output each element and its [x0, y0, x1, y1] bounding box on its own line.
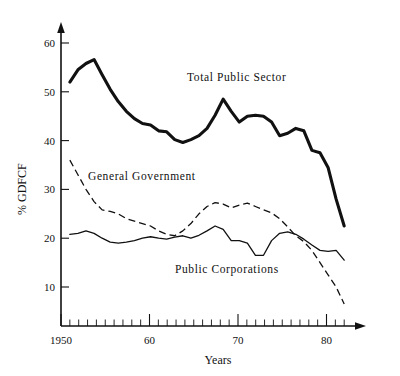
- y-tick-label-30: 30: [44, 183, 56, 195]
- x-axis-title: Years: [205, 353, 232, 367]
- x-tick-label-1950: 1950: [50, 334, 73, 346]
- x-tick-label-60: 60: [144, 334, 156, 346]
- series-label-general-government: General Government: [88, 170, 196, 182]
- series-line-public-corporations: [70, 226, 344, 260]
- y-tick-label-50: 50: [44, 86, 56, 98]
- x-axis-minor-ticks: [70, 320, 344, 327]
- line-chart-plot: 60 50 40 30 20 10 % GDFCF 1950 60 70 80 …: [0, 0, 400, 376]
- y-tick-label-20: 20: [44, 232, 56, 244]
- y-tick-label-40: 40: [44, 135, 56, 147]
- y-axis-arrowhead: [57, 22, 65, 33]
- y-axis-title: % GDFCF: [15, 163, 29, 215]
- y-axis: [57, 22, 65, 326]
- y-axis-ticks: [61, 43, 69, 287]
- series-label-public-corporations: Public Corporations: [175, 263, 279, 276]
- y-axis-tick-labels: 60 50 40 30 20 10: [44, 37, 56, 293]
- series-line-total-public-sector: [70, 60, 344, 226]
- y-tick-label-10: 10: [44, 281, 56, 293]
- x-tick-label-70: 70: [233, 334, 245, 346]
- x-axis-arrowhead: [355, 322, 366, 330]
- x-axis-tick-labels: 1950 60 70 80: [50, 334, 333, 346]
- x-axis: [61, 322, 366, 330]
- chart-figure: 60 50 40 30 20 10 % GDFCF 1950 60 70 80 …: [0, 0, 400, 376]
- y-tick-label-60: 60: [44, 37, 56, 49]
- series-label-total-public-sector: Total Public Sector: [187, 71, 286, 83]
- x-tick-label-80: 80: [321, 334, 333, 346]
